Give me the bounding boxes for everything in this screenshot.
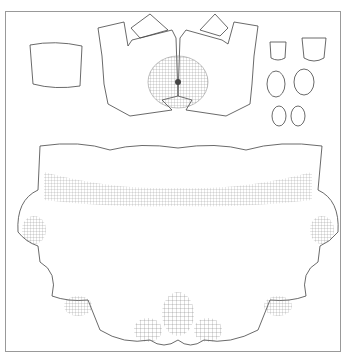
shoulder-piece-left bbox=[131, 14, 168, 38]
upper-torso-chest bbox=[98, 22, 258, 116]
shoulder-piece-right bbox=[200, 14, 228, 36]
small-square-patch bbox=[30, 43, 82, 88]
uv-layout-canvas bbox=[0, 0, 345, 356]
small-parts-group bbox=[267, 38, 326, 126]
lower-body-main bbox=[18, 144, 338, 345]
